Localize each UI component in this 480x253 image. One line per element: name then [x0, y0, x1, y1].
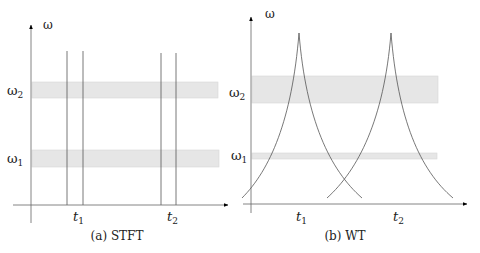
stft-time-label-t2: t2 — [167, 209, 178, 226]
wt-band-omega1 — [252, 153, 437, 159]
wt-tile-curve-t2-right — [391, 33, 453, 198]
wt-caption: (b) WT — [324, 229, 365, 243]
stft-panel: ω ω2 ω1 t1 t2 (a) STFT — [7, 18, 228, 243]
stft-y-axis-label: ω — [43, 18, 53, 32]
stft-band-label-omega1: ω1 — [7, 151, 23, 168]
wt-tile-curve-t1-left — [242, 33, 299, 198]
wt-tile-curve-t2-left — [327, 33, 391, 198]
wt-tile-curve-t1-right — [299, 33, 362, 198]
stft-band-omega1 — [32, 150, 219, 167]
stft-wt-diagram: ω ω2 ω1 t1 t2 (a) STFT ω ω2 ω1 t1 t2 (b)… — [0, 0, 480, 253]
stft-time-label-t1: t1 — [73, 209, 84, 226]
stft-band-omega2 — [32, 82, 218, 98]
wt-band-omega2 — [252, 76, 438, 103]
stft-caption: (a) STFT — [91, 229, 144, 243]
wt-y-axis-label: ω — [265, 7, 275, 21]
wt-time-label-t1: t1 — [296, 209, 307, 226]
wt-band-label-omega2: ω2 — [229, 85, 245, 102]
stft-band-label-omega2: ω2 — [7, 83, 23, 100]
wt-panel: ω ω2 ω1 t1 t2 (b) WT — [229, 7, 467, 243]
wt-band-label-omega1: ω1 — [231, 148, 247, 165]
wt-time-label-t2: t2 — [393, 209, 404, 226]
